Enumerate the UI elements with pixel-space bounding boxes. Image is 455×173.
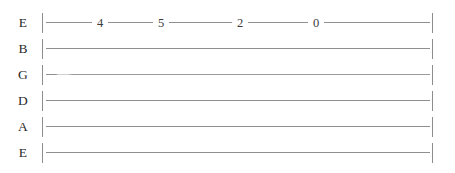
fret-number: 0 [308, 10, 324, 36]
tab-string-row: G [0, 62, 455, 88]
barline-right [432, 117, 433, 137]
string-label-a-5: A [14, 114, 32, 140]
barline-left [42, 39, 43, 59]
guitar-tab-sheet: E4520BGDAE [0, 0, 455, 173]
fret-number: 5 [153, 10, 169, 36]
barline-left [42, 91, 43, 111]
tab-string-row: B [0, 36, 455, 62]
barline-right [432, 65, 433, 85]
barline-left [42, 143, 43, 163]
barline-left [42, 117, 43, 137]
string-label-e-1: E [14, 10, 32, 36]
barline-left [42, 65, 43, 85]
fret-number: 4 [92, 10, 108, 36]
tab-string-row: E [0, 140, 455, 166]
string-label-e-6: E [14, 140, 32, 166]
string-line [46, 126, 430, 127]
barline-right [432, 39, 433, 59]
string-line [46, 100, 430, 101]
string-line [46, 74, 430, 75]
tab-string-row: D [0, 88, 455, 114]
barline-right [432, 13, 433, 33]
string-line [46, 48, 430, 49]
barline-right [432, 91, 433, 111]
tab-string-row: E4520 [0, 10, 455, 36]
string-label-g-3: G [14, 62, 32, 88]
barline-right [432, 143, 433, 163]
string-line [46, 152, 430, 153]
string-label-d-4: D [14, 88, 32, 114]
barline-left [42, 13, 43, 33]
fret-number: 2 [232, 10, 248, 36]
tab-string-row: A [0, 114, 455, 140]
string-label-b-2: B [14, 36, 32, 62]
